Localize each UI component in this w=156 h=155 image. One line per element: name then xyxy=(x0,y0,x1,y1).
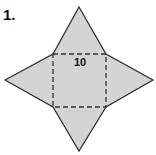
pyramid-net-figure: 10 xyxy=(0,0,156,155)
net-outline xyxy=(5,7,153,151)
side-length-label: 10 xyxy=(74,56,86,68)
